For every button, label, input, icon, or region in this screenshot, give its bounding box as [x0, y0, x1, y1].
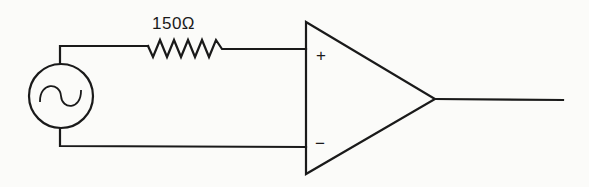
- sine-wave-icon: [40, 86, 81, 106]
- resistor-value-label: 150Ω: [152, 14, 195, 33]
- circuit-diagram: 150Ω + −: [0, 0, 589, 187]
- op-amp-triangle: [306, 22, 435, 174]
- output-wire: [435, 99, 563, 100]
- resistor-150-ohm: [148, 40, 228, 57]
- plus-input-label: +: [316, 46, 326, 65]
- wire-source-to-resistor: [60, 46, 148, 64]
- wire-source-to-minus-input: [60, 128, 306, 147]
- minus-input-label: −: [315, 134, 325, 153]
